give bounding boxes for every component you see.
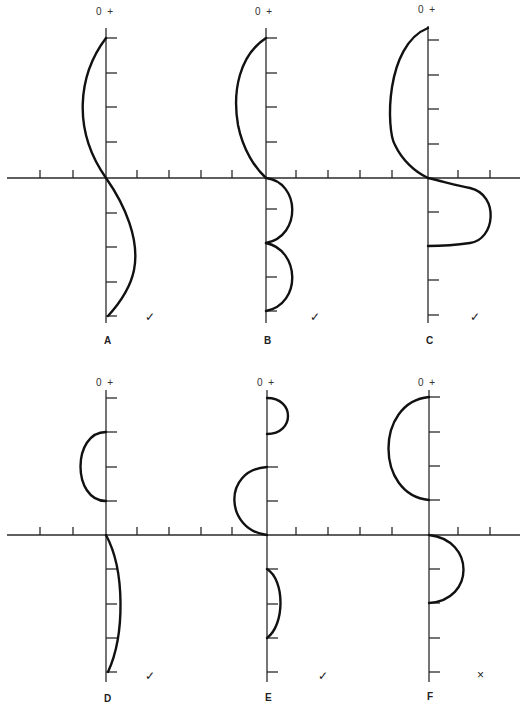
zero-plus-label-c: 0 + [418, 5, 435, 15]
curve-a [83, 38, 136, 316]
check-icon-c: ✓ [470, 311, 480, 323]
curve-b-lower-1 [266, 178, 292, 243]
curve-e-top [267, 398, 288, 434]
panel-a [83, 28, 136, 323]
curve-c-upper [390, 28, 428, 178]
curve-b-upper [236, 38, 266, 178]
panel-f [389, 390, 464, 682]
vertical-ticks-a [106, 38, 117, 316]
curve-f-upper [389, 397, 430, 500]
zero-label: 0 [96, 377, 102, 388]
diagram-canvas [0, 0, 527, 707]
zero-plus-label-e: 0 + [257, 378, 274, 388]
zero-plus-label-f: 0 + [418, 378, 435, 388]
plus-label: + [429, 4, 435, 15]
zero-label: 0 [257, 377, 263, 388]
vertical-ticks-b [266, 38, 277, 311]
zero-label: 0 [255, 6, 261, 17]
panel-letter-d: D [104, 694, 111, 704]
zero-label: 0 [418, 377, 424, 388]
zero-label: 0 [96, 6, 102, 17]
plus-label: + [268, 377, 274, 388]
plus-label: + [107, 6, 113, 17]
curve-d-upper [81, 432, 107, 501]
check-icon-a: ✓ [145, 311, 155, 323]
plus-label: + [107, 377, 113, 388]
panel-e [234, 390, 288, 682]
panel-d [81, 390, 121, 682]
panel-letter-b: B [264, 336, 271, 346]
check-icon-e: ✓ [318, 670, 328, 682]
zero-plus-label-d: 0 + [96, 378, 113, 388]
zero-label: 0 [418, 4, 424, 15]
plus-label: + [266, 6, 272, 17]
curve-e-middle [234, 467, 267, 535]
panel-letter-a: A [104, 336, 111, 346]
check-icon-d: ✓ [145, 670, 155, 682]
panel-letter-e: E [265, 693, 272, 703]
panel-letter-c: C [426, 336, 433, 346]
panel-letter-f: F [427, 692, 433, 702]
cross-icon-f: × [477, 669, 484, 681]
zero-plus-label-a: 0 + [96, 7, 113, 17]
panel-c [390, 26, 491, 323]
panel-b [236, 28, 292, 323]
plus-label: + [429, 377, 435, 388]
zero-plus-label-b: 0 + [255, 7, 272, 17]
check-icon-b: ✓ [310, 311, 320, 323]
